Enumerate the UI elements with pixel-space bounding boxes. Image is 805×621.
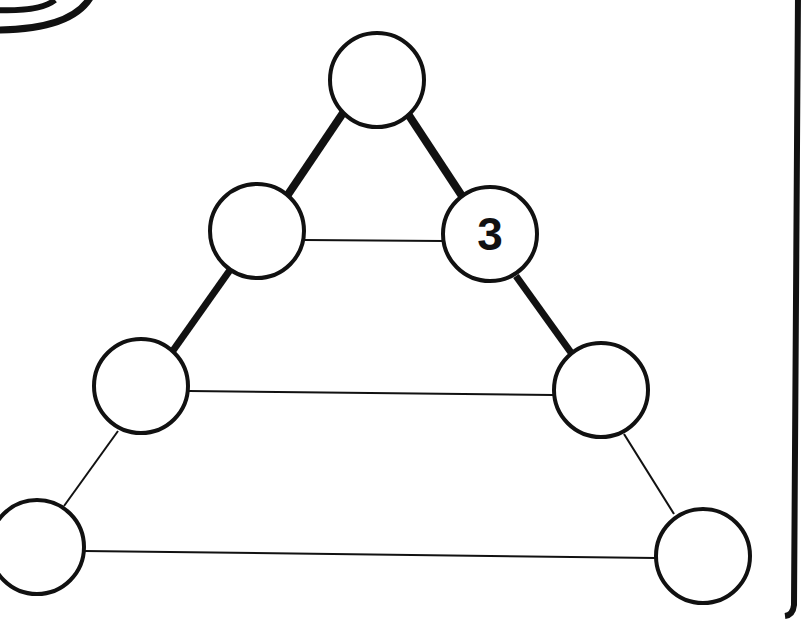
triangle-puzzle-diagram: 3 — [0, 0, 805, 621]
node-row3-right[interactable] — [554, 343, 648, 437]
edge-row2-left-row3-left — [172, 270, 230, 352]
node-row2-left[interactable] — [210, 184, 304, 278]
edge-top-left — [287, 113, 343, 196]
node-top[interactable] — [330, 33, 424, 127]
edge-row4-horizontal — [84, 551, 656, 558]
edge-row3-horizontal — [189, 391, 553, 395]
edge-top-right — [408, 114, 462, 196]
edge-row3-left-row4-left — [64, 431, 118, 506]
node-value: 3 — [477, 208, 503, 260]
node-row2-right[interactable]: 3 — [443, 187, 537, 281]
frame-border-right — [785, 0, 798, 616]
edge-row2-horizontal — [305, 240, 443, 241]
corner-arc-inner — [0, 0, 55, 10]
node-row3-left[interactable] — [94, 339, 188, 433]
edge-row3-right-row4-right — [624, 434, 674, 514]
node-row4-left[interactable] — [0, 500, 84, 594]
edge-row2-right-row3-right — [516, 276, 572, 354]
node-row4-right[interactable] — [656, 509, 750, 603]
